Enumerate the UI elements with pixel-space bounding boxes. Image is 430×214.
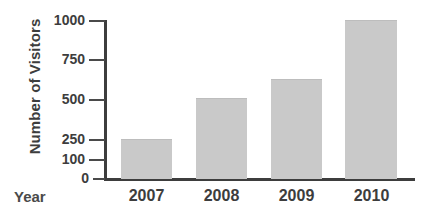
y-tick-mark-0 [93, 178, 105, 180]
x-tick-label-2007: 2007 [116, 187, 177, 205]
y-tick-mark-500 [89, 99, 105, 101]
y-tick-label-0: 0 [29, 170, 89, 186]
bar-2009 [271, 79, 322, 179]
x-tick-label-2010: 2010 [341, 187, 402, 205]
bar-chart: 1000 750 500 250 100 0 2007 2008 2009 20… [0, 0, 430, 214]
bar-2010 [345, 20, 397, 179]
y-tick-mark-250 [89, 139, 105, 141]
x-axis-title: Year [14, 188, 46, 205]
x-tick-label-2008: 2008 [191, 187, 252, 205]
y-axis-title: Number of Visitors [26, 7, 43, 167]
bar-2008 [196, 98, 247, 179]
y-tick-mark-100 [89, 159, 105, 161]
plot-area: 1000 750 500 250 100 0 2007 2008 2009 20… [0, 0, 430, 214]
x-tick-label-2009: 2009 [266, 187, 327, 205]
y-tick-mark-1000 [89, 20, 105, 22]
y-tick-mark-750 [89, 59, 105, 61]
bar-2007 [121, 139, 172, 179]
